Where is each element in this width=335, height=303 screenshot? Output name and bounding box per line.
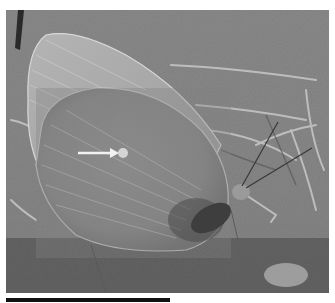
scale-bar	[6, 298, 170, 302]
discal-spot	[118, 148, 128, 158]
butterfly-photo	[6, 10, 329, 293]
